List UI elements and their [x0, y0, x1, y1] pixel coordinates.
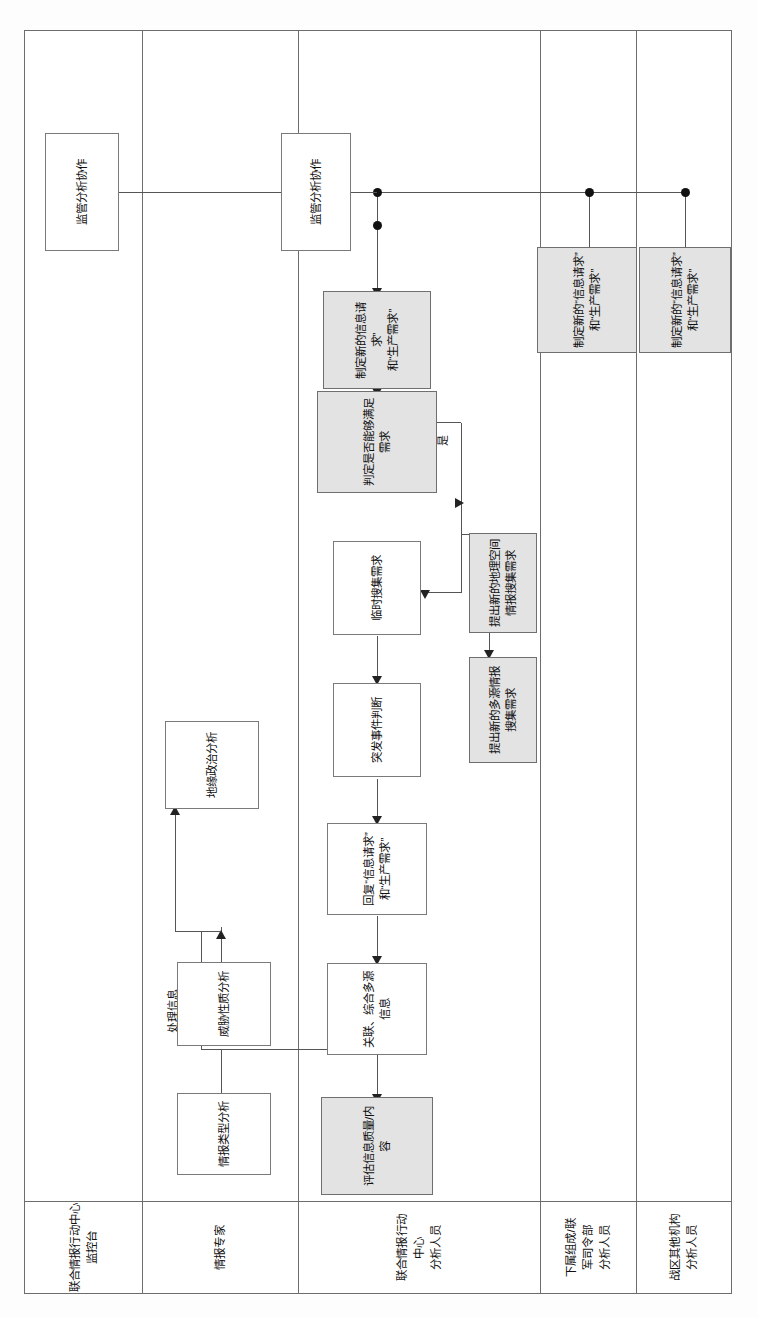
swimlane-label: 情报专家 — [212, 1225, 229, 1270]
swimlane-label: 下属组成/联 军司令部 分析人员 — [563, 1218, 613, 1277]
node-label: 提出新的多源情报 搜集需求 — [487, 666, 520, 754]
node-supervise-analysis-collab-analyst[interactable]: 监管分析协作 — [281, 133, 351, 251]
node-label: 临时搜集需求 — [369, 555, 385, 621]
connector-newreq3-to-sync — [685, 193, 686, 247]
connector-emergency-to-adhoc — [377, 636, 378, 680]
node-correlate-multisource[interactable]: 关联、综合多源 信息 — [327, 963, 427, 1055]
sync-line-new-requests — [377, 192, 687, 193]
connector-to-type — [221, 1049, 222, 1093]
junction-dot-sync-mid — [585, 188, 594, 197]
swimlane-label: 联合情报行动中心 监控台 — [67, 1203, 100, 1293]
connector-newreq2-to-sync — [589, 193, 590, 247]
node-assess-info-quality[interactable]: 评估信息质量/内容 — [321, 1097, 433, 1195]
swimlane-header: 下属组成/联 军司令部 分析人员 — [541, 1201, 636, 1293]
connector-to-newreq-1 — [377, 247, 378, 291]
arrowhead-no — [455, 498, 464, 508]
node-intel-type-analysis[interactable]: 情报类型分析 — [177, 1093, 271, 1175]
swimlane-header: 联合情报行动中心 监控台 — [25, 1201, 142, 1293]
connector-stub — [221, 1049, 222, 1050]
node-new-request-subordinate[interactable]: 制定新的“信息请求” 和“生产需求” — [537, 247, 637, 353]
node-label: 制定新的“信息请求” 和“生产需求” — [571, 252, 604, 348]
node-label: 情报类型分析 — [216, 1101, 232, 1167]
node-label: 监管分析协作 — [74, 159, 90, 225]
junction-dot-newreq-1 — [373, 221, 382, 230]
swimlane-header: 联合情报行动 中心 分析人员 — [299, 1201, 540, 1293]
node-emergency-judgment[interactable]: 突发事件判断 — [333, 683, 421, 777]
swimlane-header: 战区其他机构 分析人员 — [637, 1201, 731, 1293]
node-new-geoint-collection-requirement[interactable]: 提出新的地理空间 情报搜集需求 — [469, 533, 537, 633]
node-decide-meets-requirement[interactable]: 判定是否能够满足需求 — [317, 391, 437, 493]
node-label: 地缘政治分析 — [204, 732, 220, 798]
node-label: 评估信息质量/内容 — [361, 1101, 394, 1191]
node-label: 提出新的地理空间 情报搜集需求 — [487, 539, 520, 627]
connector-no-run — [461, 423, 462, 503]
node-new-multisource-collection-requirement[interactable]: 提出新的多源情报 搜集需求 — [469, 657, 537, 763]
swimlane-label: 战区其他机构 分析人员 — [667, 1214, 700, 1281]
connector-to-geo — [175, 812, 176, 932]
connector-assess-to-correlate — [377, 1055, 378, 1097]
node-supervise-analysis-collab-console[interactable]: 监管分析协作 — [45, 133, 119, 251]
node-label: 威胁性质分析 — [216, 971, 232, 1037]
node-threat-nature-analysis[interactable]: 威胁性质分析 — [177, 962, 271, 1046]
node-adhoc-collection-requirement[interactable]: 临时搜集需求 — [333, 541, 421, 635]
node-geopolitical-analysis[interactable]: 地缘政治分析 — [165, 721, 259, 809]
junction-dot-sync-bottom — [681, 188, 690, 197]
diagram-page: 联合情报行动中心 监控台 情报专家 联合情报行动 中心 分析人员 下属组成/联 … — [0, 0, 758, 1318]
node-label: 制定新的信息请求” 和“生产需求” — [353, 295, 402, 385]
connector-correlate-to-reply — [377, 916, 378, 960]
connector-yes-riser — [425, 592, 461, 593]
node-label: 判定是否能够满足需求 — [361, 395, 394, 489]
node-label: 回复“信息请求” 和“生产需求” — [361, 832, 394, 906]
connector-reply-to-emergency — [377, 779, 378, 819]
node-label: 突发事件判断 — [369, 697, 385, 763]
node-label: 制定新的“信息请求” 和“生产需求” — [669, 252, 702, 348]
connector-newreq1-to-sync — [377, 193, 378, 247]
node-new-request-joc-analyst[interactable]: 制定新的信息请求” 和“生产需求” — [323, 291, 431, 389]
diagram-frame: 联合情报行动中心 监控台 情报专家 联合情报行动 中心 分析人员 下属组成/联 … — [24, 30, 732, 1294]
node-label: 关联、综合多源 信息 — [361, 971, 394, 1048]
node-reply-rfi-pr[interactable]: 回复“信息请求” 和“生产需求” — [327, 823, 427, 915]
diagram-canvas: 联合情报行动中心 监控台 情报专家 联合情报行动 中心 分析人员 下属组成/联 … — [25, 31, 731, 1293]
arrowhead-yes-to-adhoc — [420, 590, 430, 599]
node-label: 监管分析协作 — [308, 159, 324, 225]
swimlane-header: 情报专家 — [143, 1201, 298, 1293]
node-new-request-theater-other[interactable]: 制定新的“信息请求” 和“生产需求” — [639, 247, 731, 353]
swimlane-label: 联合情报行动 中心 分析人员 — [394, 1214, 444, 1281]
swimlane-theater-other: 战区其他机构 分析人员 — [637, 31, 731, 1293]
connector-up-to-geo — [175, 931, 221, 932]
